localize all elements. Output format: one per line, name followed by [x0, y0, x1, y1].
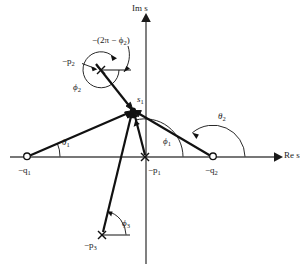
- label-q1: −q1: [18, 166, 31, 177]
- angle-arc-theta2-arrowhead: [192, 133, 199, 139]
- label-q2: −q2: [205, 166, 218, 177]
- imaginary-axis-arrowhead: [141, 13, 151, 22]
- axis-label-real: Re s: [284, 151, 300, 160]
- label-reflex-angle: −(2π − ϕ2): [92, 36, 130, 47]
- markers-group: [24, 66, 217, 239]
- label-p2: −p2: [62, 57, 75, 68]
- label-theta2: θ2: [218, 112, 226, 123]
- s-plane-diagram: [0, 0, 308, 269]
- zero-q1-marker: [24, 153, 31, 160]
- real-axis-arrowhead: [274, 152, 283, 162]
- label-p3: −p3: [84, 241, 97, 252]
- vector-q1-to-s1: [30, 111, 133, 156]
- axis-label-imaginary: Im s: [132, 4, 148, 13]
- label-phi3: ϕ3: [122, 219, 130, 230]
- label-phi2: ϕ2: [73, 83, 81, 94]
- axes-group: [10, 13, 283, 264]
- vector-q2-to-s1: [133, 111, 210, 156]
- figure-canvas: Im s Re s s1 −p1 −p2 −p3 −q1 −q2 θ1 θ2 ϕ…: [0, 0, 308, 269]
- angle-arc-theta2: [192, 125, 245, 156]
- angle-arc-phi2-arrowhead: [111, 55, 117, 61]
- point-s1-marker: [130, 107, 136, 113]
- leader-line-reflex-arrowhead: [124, 66, 130, 72]
- leader-line-p2-arrowhead: [91, 67, 97, 72]
- vector-p3-to-s1: [103, 111, 135, 233]
- zero-q2-marker: [210, 153, 217, 160]
- label-s1: s1: [137, 95, 144, 106]
- vectors-group: [30, 64, 210, 232]
- label-p1: −p1: [148, 166, 161, 177]
- angle-arcs-group: [57, 46, 245, 235]
- label-theta1: θ1: [62, 138, 70, 149]
- angle-arc-theta1: [57, 143, 60, 156]
- label-phi1: ϕ1: [163, 137, 171, 148]
